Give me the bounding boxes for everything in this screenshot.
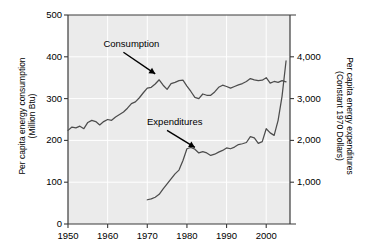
y-axis-right-tick-label: 2,000 <box>297 134 337 145</box>
y-axis-left-title: Per capita energy consumption (Million B… <box>17 41 37 191</box>
y-axis-right-tick-label: 4,000 <box>297 51 337 62</box>
x-axis-tick-label: 1970 <box>127 230 167 241</box>
y-axis-right-tick-label: 1,000 <box>297 176 337 187</box>
y-axis-right-tick-label: 3,000 <box>297 93 337 104</box>
chart-figure: Per capita energy consumption (Million B… <box>0 0 371 252</box>
y-axis-left-tick-label: 200 <box>28 134 62 145</box>
y-axis-left-tick-label: 400 <box>28 51 62 62</box>
y-axis-left-tick-label: 0 <box>28 218 62 229</box>
y-axis-left-tick-label: 300 <box>28 93 62 104</box>
y-axis-left-title-line1: Per capita energy consumption <box>17 41 27 191</box>
x-axis-tick-label: 1950 <box>48 230 88 241</box>
annotation-label-expenditures: Expenditures <box>147 116 202 127</box>
y-axis-left-tick-label: 100 <box>28 176 62 187</box>
annotation-label-consumption: Consumption <box>103 38 159 49</box>
x-axis-tick-label: 1960 <box>88 230 128 241</box>
y-axis-left-title-line2: (Million Btu) <box>27 41 37 191</box>
x-axis-tick-label: 1980 <box>167 230 207 241</box>
y-axis-right-title-line1: Per capita energy expenditures <box>345 41 355 191</box>
y-axis-right-title-line2: (Constant 1970 Dollars) <box>335 41 345 191</box>
y-axis-right-title: Per capita energy expenditures (Constant… <box>335 41 355 191</box>
x-axis-tick-label: 2000 <box>246 230 286 241</box>
y-axis-left-tick-label: 500 <box>28 9 62 20</box>
x-axis-tick-label: 1990 <box>207 230 247 241</box>
